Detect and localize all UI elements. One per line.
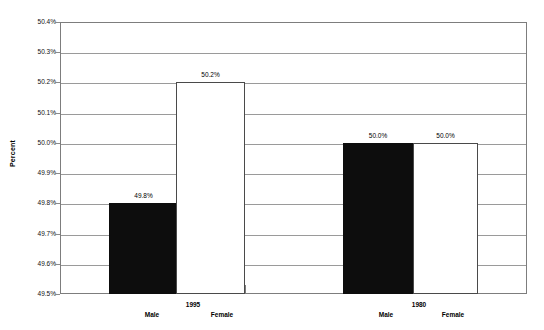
x-axis-category-label: Male [127, 311, 177, 319]
x-axis-labels: MaleFemale1995MaleFemale1980 [0, 0, 544, 330]
x-axis-group-label: 1995 [168, 301, 218, 309]
x-axis-group-label: 1980 [394, 301, 444, 309]
bar-chart: Percent 50.4%50.3%50.2%50.1%50.0%49.9%49… [0, 0, 544, 330]
x-axis-category-label: Female [428, 311, 478, 319]
x-axis-category-label: Male [361, 311, 411, 319]
x-axis-category-label: Female [197, 311, 247, 319]
